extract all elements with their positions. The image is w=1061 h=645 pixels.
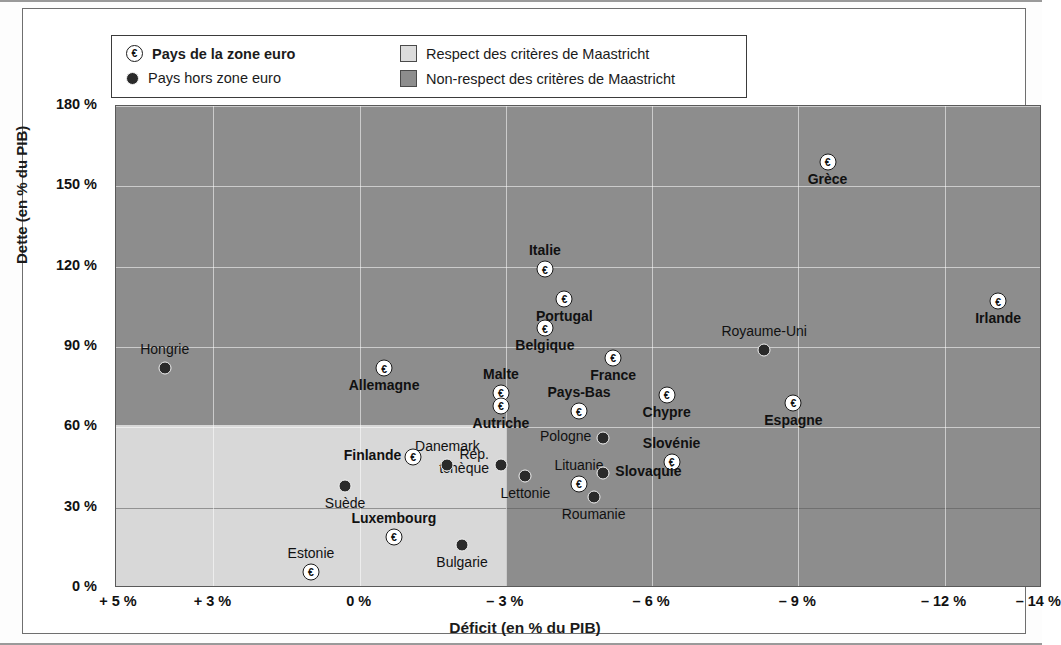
data-point-label: Suède [325, 496, 365, 511]
dot-marker-icon [597, 432, 610, 445]
data-point-label: Grèce [808, 172, 848, 187]
euro-marker-icon: € [819, 154, 836, 171]
y-tick-30: 30 % [23, 498, 97, 514]
data-point-label: Slovénie [643, 436, 701, 451]
euro-marker-icon: € [571, 403, 588, 420]
chart-frame: Hongrie€Allemagne€Malte€Autriche€Belgiqu… [22, 8, 1026, 634]
x-tick--12: – 12 % [921, 593, 966, 609]
data-point-label: France [590, 368, 636, 383]
dot-marker-icon [495, 458, 508, 471]
page-top-rule [0, 0, 1042, 2]
data-point-label: Danemark [415, 439, 480, 454]
x-tick--6: – 6 % [633, 593, 670, 609]
gridline-h-180 [116, 106, 1040, 107]
dot-marker-icon [597, 466, 610, 479]
dot-marker-icon [758, 343, 771, 356]
data-point-label: Lettonie [500, 486, 550, 501]
legend-non-respect-label: Non-respect des critères de Maastricht [426, 71, 675, 87]
y-tick-0: 0 % [23, 578, 97, 594]
data-point-label: Portugal [536, 309, 593, 324]
x-tick--9: – 9 % [779, 593, 816, 609]
x-tick--3: – 3 % [486, 593, 523, 609]
gridline-h-150 [116, 186, 1040, 187]
gridline-v--9 [798, 106, 799, 586]
euro-marker-icon: € [405, 448, 422, 465]
gridline-h-90 [116, 347, 1040, 348]
dot-marker-icon [587, 490, 600, 503]
data-point-label: Finlande [344, 448, 402, 463]
data-point-label: Pologne [540, 429, 591, 444]
x-tick-0: 0 % [346, 593, 371, 609]
data-point-label: Pays-Bas [547, 385, 610, 400]
dot-marker-icon [126, 72, 139, 85]
data-point-label: Royaume-Uni [721, 324, 807, 339]
data-point-label: Roumanie [562, 507, 626, 522]
gridline-v--6 [652, 106, 653, 586]
gridline-v-3 [213, 106, 214, 586]
euro-marker-icon: € [605, 349, 622, 366]
legend-item-euro: € Pays de la zone euro [126, 45, 295, 62]
euro-marker-icon: € [990, 293, 1007, 310]
gridline-v--12 [945, 106, 946, 586]
euro-marker-icon: € [556, 290, 573, 307]
data-point-label: Chypre [643, 405, 691, 420]
euro-marker-icon: € [126, 45, 143, 62]
dot-marker-icon [339, 480, 352, 493]
x-tick-3: + 3 % [194, 593, 231, 609]
legend-euro-label: Pays de la zone euro [152, 46, 295, 62]
data-point-label: Slovaquie [615, 464, 681, 479]
gridline-v--3 [506, 106, 507, 586]
euro-marker-icon: € [536, 261, 553, 278]
data-point-label: Malte [483, 367, 519, 382]
y-tick-60: 60 % [23, 417, 97, 433]
data-point-label: Italie [529, 243, 561, 258]
dark-swatch-icon [400, 70, 417, 87]
legend: € Pays de la zone euro Pays hors zone eu… [111, 35, 747, 98]
dot-marker-icon [441, 458, 454, 471]
euro-marker-icon: € [493, 397, 510, 414]
legend-item-respect: Respect des critères de Maastricht [400, 45, 649, 62]
legend-non-euro-label: Pays hors zone euro [148, 70, 281, 86]
gridline-h-120 [116, 267, 1040, 268]
euro-marker-icon: € [302, 563, 319, 580]
light-swatch-icon [400, 45, 417, 62]
data-point-label: Irlande [975, 311, 1021, 326]
euro-marker-icon: € [376, 360, 393, 377]
data-point-label: Luxembourg [351, 511, 436, 526]
euro-marker-icon: € [785, 395, 802, 412]
x-tick-5: + 5 % [99, 593, 136, 609]
legend-item-non-respect: Non-respect des critères de Maastricht [400, 70, 675, 87]
euro-marker-icon: € [385, 529, 402, 546]
data-point-label: Espagne [764, 413, 822, 428]
legend-item-non-euro: Pays hors zone euro [126, 70, 281, 86]
euro-marker-icon: € [571, 475, 588, 492]
data-point-label: Autriche [473, 416, 530, 431]
dot-marker-icon [158, 362, 171, 375]
legend-respect-label: Respect des critères de Maastricht [426, 46, 649, 62]
dot-marker-icon [519, 469, 532, 482]
x-tick--14: – 14 % [1016, 593, 1061, 609]
data-point-label: Bulgarie [436, 555, 487, 570]
plot-area: Hongrie€Allemagne€Malte€Autriche€Belgiqu… [115, 105, 1041, 587]
y-tick-90: 90 % [23, 337, 97, 353]
data-point-label: Hongrie [140, 342, 189, 357]
data-point-label: Belgique [515, 338, 574, 353]
data-point-label: Allemagne [349, 378, 420, 393]
y-tick-150: 150 % [23, 176, 97, 192]
y-axis-title: Dette (en % du PIB) [13, 126, 30, 264]
x-axis-title: Déficit (en % du PIB) [23, 619, 1027, 637]
data-point-label: Estonie [288, 546, 335, 561]
euro-marker-icon: € [658, 387, 675, 404]
dot-marker-icon [456, 539, 469, 552]
y-tick-120: 120 % [23, 257, 97, 273]
y-tick-180: 180 % [23, 96, 97, 112]
